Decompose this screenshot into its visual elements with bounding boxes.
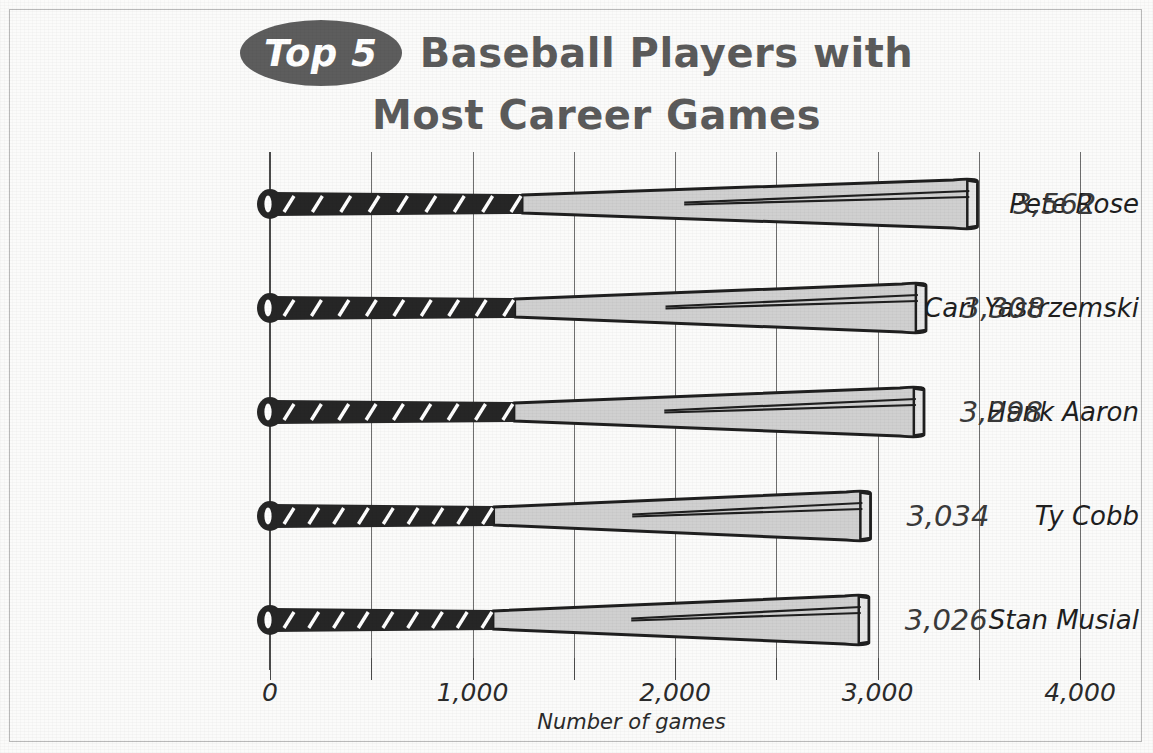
bar-bat-carl-yastrzemski <box>254 268 946 348</box>
x-axis-title: Number of games <box>0 710 1153 734</box>
x-tick-label-3000: 3,000 <box>842 678 914 707</box>
title-text-line2: Most Career Games <box>0 92 1153 138</box>
value-label-ty-cobb: 3,034 <box>906 499 989 533</box>
table-row: Ty Cobb 3,034 <box>0 464 1153 568</box>
x-tick-label-4000: 4,000 <box>1044 678 1116 707</box>
x-tick-label-1000: 1,000 <box>437 678 509 707</box>
x-tick-label-0: 0 <box>262 678 278 707</box>
bar-bat-hank-aaron <box>254 372 944 452</box>
infographic-chart: Top 5 Baseball Players with Most Career … <box>0 0 1153 753</box>
value-label-carl-yastrzemski: 3,308 <box>962 291 1045 325</box>
bar-bat-pete-rose <box>254 164 997 244</box>
title-first-line: Top 5 Baseball Players with <box>0 20 1153 86</box>
value-label-hank-aaron: 3,298 <box>960 395 1043 429</box>
table-row: Carl Yastrzemski 3,308 <box>0 256 1153 360</box>
table-row: Stan Musial 3,026 <box>0 568 1153 672</box>
bar-bat-ty-cobb <box>254 476 890 556</box>
title-text-line1: Baseball Players with <box>420 32 914 74</box>
chart-title-block: Top 5 Baseball Players with Most Career … <box>0 20 1153 138</box>
x-axis-title-text: Number of games <box>427 710 725 734</box>
top5-badge: Top 5 <box>240 20 402 86</box>
x-tick-label-2000: 2,000 <box>639 678 711 707</box>
table-row: Pete Rose 3,562 <box>0 152 1153 256</box>
table-row: Hank Aaron 3,298 <box>0 360 1153 464</box>
bar-bat-stan-musial <box>254 580 889 660</box>
value-label-pete-rose: 3,562 <box>1013 187 1096 221</box>
value-label-stan-musial: 3,026 <box>905 603 988 637</box>
